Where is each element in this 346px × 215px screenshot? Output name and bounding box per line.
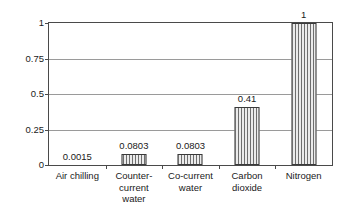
y-tick-label: 0 bbox=[16, 160, 44, 170]
x-category-label: Counter-currentwater bbox=[106, 170, 163, 205]
bar-value-label: 0.0015 bbox=[63, 151, 92, 162]
bar-slot: 0.0015 bbox=[49, 23, 106, 165]
bar-slot: 0.41 bbox=[219, 23, 276, 165]
y-tick-label: 0.5 bbox=[16, 89, 44, 99]
bar-chart: Comparative cost 0 0.25 0.5 0.75 1 0.001… bbox=[0, 0, 346, 215]
x-category-label-line: Air chilling bbox=[49, 170, 106, 182]
bar-slot: 0.0803 bbox=[106, 23, 163, 165]
x-category-label-line: current bbox=[106, 182, 163, 194]
y-tick-label: 0.25 bbox=[16, 125, 44, 135]
bar-slot: 0.0803 bbox=[162, 23, 219, 165]
bar-slot: 1 bbox=[275, 23, 332, 165]
x-category-label: Co-currentwater bbox=[162, 170, 219, 193]
x-tick-mark bbox=[162, 165, 163, 169]
x-category-label-line: Counter- bbox=[106, 170, 163, 182]
x-category-label-line: Nitrogen bbox=[275, 170, 332, 182]
bar[interactable] bbox=[235, 107, 260, 165]
bar[interactable] bbox=[121, 154, 146, 165]
y-tick-label: 1 bbox=[16, 18, 44, 28]
bar-value-label: 0.0803 bbox=[176, 140, 205, 151]
x-tick-mark bbox=[275, 165, 276, 169]
y-axis-tick-labels: 0 0.25 0.5 0.75 1 bbox=[14, 0, 44, 215]
x-category-label-line: dioxide bbox=[219, 182, 276, 194]
plot-area: 0.00150.08030.08030.411 bbox=[48, 22, 333, 166]
x-category-label: Carbondioxide bbox=[219, 170, 276, 193]
bar[interactable] bbox=[291, 23, 316, 165]
x-category-label-line: water bbox=[106, 193, 163, 205]
bar[interactable] bbox=[178, 154, 203, 165]
x-tick-mark bbox=[106, 165, 107, 169]
x-category-label: Nitrogen bbox=[275, 170, 332, 182]
bar-value-label: 0.41 bbox=[238, 93, 257, 104]
x-category-label: Air chilling bbox=[49, 170, 106, 182]
y-tick-mark bbox=[45, 165, 49, 166]
x-category-label-line: Co-current bbox=[162, 170, 219, 182]
bar-value-label: 0.0803 bbox=[119, 140, 148, 151]
x-category-label-line: Carbon bbox=[219, 170, 276, 182]
bar-value-label: 1 bbox=[301, 9, 306, 20]
x-category-label-line: water bbox=[162, 182, 219, 194]
y-tick-label: 0.75 bbox=[16, 54, 44, 64]
x-tick-mark bbox=[219, 165, 220, 169]
